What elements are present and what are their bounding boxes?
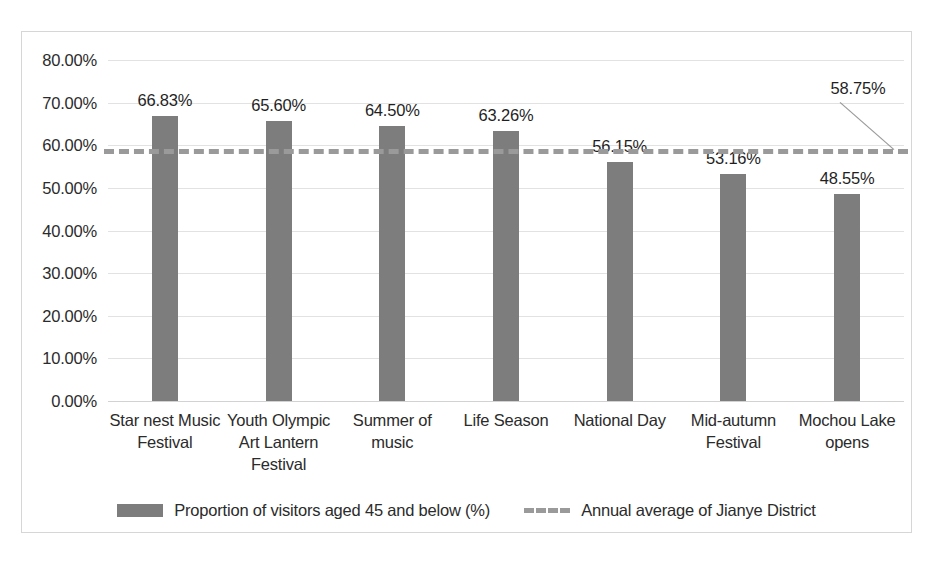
legend-label-bar-series: Proportion of visitors aged 45 and below… xyxy=(174,501,490,520)
bar-data-label: 66.83% xyxy=(137,91,192,110)
bar[interactable] xyxy=(379,126,405,401)
x-axis-category-label: Youth Olympic Art Lantern Festival xyxy=(219,410,339,476)
bar[interactable] xyxy=(266,121,292,401)
annual-average-value-label: 58.75% xyxy=(831,79,886,98)
y-axis-tick-label: 30.00% xyxy=(42,264,97,283)
x-axis-category-label: Star nest Music Festival xyxy=(105,410,225,454)
x-axis-category-label: Mochou Lake opens xyxy=(787,410,907,454)
x-axis-category-label: Life Season xyxy=(446,410,566,432)
x-axis-category-label: National Day xyxy=(560,410,680,432)
gridline xyxy=(108,103,904,104)
plot-area: 0.00%10.00%20.00%30.00%40.00%50.00%60.00… xyxy=(108,60,904,401)
y-axis-tick-label: 80.00% xyxy=(42,51,97,70)
gridline xyxy=(108,401,904,402)
y-axis-tick-label: 60.00% xyxy=(42,136,97,155)
y-axis-tick-label: 50.00% xyxy=(42,178,97,197)
annual-average-line xyxy=(104,149,908,154)
bar-data-label: 65.60% xyxy=(251,96,306,115)
legend-item-bar-series[interactable]: Proportion of visitors aged 45 and below… xyxy=(117,501,490,520)
bar-data-label: 63.26% xyxy=(479,106,534,125)
y-axis-tick-label: 20.00% xyxy=(42,306,97,325)
bar-data-label: 64.50% xyxy=(365,101,420,120)
gridline xyxy=(108,60,904,61)
bar[interactable] xyxy=(493,131,519,401)
x-axis-category-label: Summer of music xyxy=(332,410,452,454)
bar[interactable] xyxy=(152,116,178,401)
bar-data-label: 48.55% xyxy=(820,169,875,188)
y-axis-tick-label: 0.00% xyxy=(51,392,97,411)
chart-container: 0.00%10.00%20.00%30.00%40.00%50.00%60.00… xyxy=(21,31,912,533)
legend-swatch-bar-icon xyxy=(117,504,163,517)
chart-legend: Proportion of visitors aged 45 and below… xyxy=(22,501,911,520)
legend-label-average-line: Annual average of Jianye District xyxy=(581,501,816,520)
x-axis-category-label: Mid-autumn Festival xyxy=(673,410,793,454)
y-axis-tick-label: 40.00% xyxy=(42,221,97,240)
y-axis-tick-label: 70.00% xyxy=(42,93,97,112)
bar[interactable] xyxy=(607,162,633,401)
legend-item-average-line[interactable]: Annual average of Jianye District xyxy=(524,501,816,520)
legend-swatch-dashed-line-icon xyxy=(524,508,570,513)
bar[interactable] xyxy=(834,194,860,401)
y-axis-tick-label: 10.00% xyxy=(42,349,97,368)
bar[interactable] xyxy=(720,174,746,401)
